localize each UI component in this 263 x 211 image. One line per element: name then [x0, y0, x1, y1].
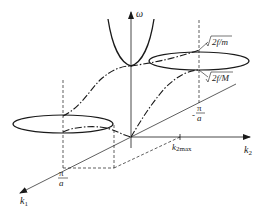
acoustic-limit-leader	[199, 70, 208, 77]
svg-text:2f/m: 2f/m	[212, 37, 229, 47]
acoustic-limit-label: 2f/M	[206, 72, 233, 83]
svg-text:a: a	[59, 178, 64, 188]
optical-branch-left	[63, 66, 131, 116]
svg-text:-: -	[192, 110, 195, 120]
svg-text:a: a	[197, 113, 202, 123]
acoustic-branch-right	[131, 70, 199, 137]
dispersion-diagram: ω k2 k1 k2max π a - π a 2f/m	[0, 0, 263, 211]
omega-axis-label: ω	[136, 8, 143, 19]
optical-limit-label: 2f/m	[206, 36, 232, 47]
svg-text:π: π	[59, 168, 64, 178]
k2max-label: k2max	[172, 142, 192, 153]
svg-text:2f/M: 2f/M	[212, 73, 230, 83]
optical-limit-leader	[199, 42, 208, 50]
svg-text:π: π	[197, 103, 202, 113]
pi-over-a-label: π a	[58, 168, 68, 188]
k2-axis-label: k2	[244, 144, 252, 157]
k1-axis-label: k1	[20, 195, 28, 208]
acoustic-branch-left	[63, 127, 131, 137]
neg-pi-over-a-label: - π a	[192, 103, 205, 123]
dashed-to-k2max	[114, 137, 180, 168]
k1-axis-back	[131, 84, 236, 137]
